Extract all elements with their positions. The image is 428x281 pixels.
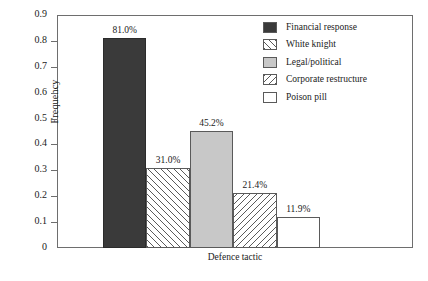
y-tick-label: 0.4 — [35, 137, 48, 148]
y-tick-label: 0.1 — [35, 215, 48, 226]
y-tick-label: 0.7 — [35, 60, 48, 71]
bar-value-label: 31.0% — [156, 155, 181, 165]
bar[interactable] — [103, 38, 146, 248]
legend-item-label: White knight — [286, 39, 336, 50]
bar[interactable] — [277, 217, 320, 248]
x-axis-title: Defence tactic — [57, 252, 413, 262]
y-tick-label: 0.3 — [35, 163, 48, 174]
y-tick-label: 0.2 — [35, 189, 48, 200]
legend-item[interactable]: White knight — [263, 39, 367, 50]
bar-value-label: 45.2% — [199, 118, 224, 128]
legend-item[interactable]: Poison pill — [263, 92, 367, 103]
bar-group: 31.0% — [146, 15, 189, 248]
chart-legend: Financial responseWhite knightLegal/poli… — [263, 22, 367, 103]
legend-swatch-icon — [263, 22, 277, 33]
y-tick-label: 0.5 — [35, 112, 48, 123]
bar[interactable] — [190, 131, 233, 248]
bar[interactable] — [146, 168, 189, 248]
legend-item[interactable]: Corporate restructure — [263, 74, 367, 85]
legend-item-label: Legal/political — [286, 57, 341, 68]
legend-item-label: Corporate restructure — [286, 74, 367, 85]
bar-value-label: 21.4% — [243, 180, 268, 190]
bar-value-label: 81.0% — [112, 25, 137, 35]
legend-swatch-icon — [263, 92, 277, 103]
y-tick-label: 0 — [42, 241, 47, 252]
legend-swatch-icon — [263, 39, 277, 50]
y-tick-label: 0.8 — [35, 34, 48, 45]
legend-item[interactable]: Financial response — [263, 22, 367, 33]
y-tick-label: 0.6 — [35, 86, 48, 97]
y-tick-label: 0.9 — [35, 8, 48, 19]
bar-value-label: 11.9% — [286, 204, 310, 214]
legend-swatch-icon — [263, 57, 277, 68]
bar-group: 45.2% — [190, 15, 233, 248]
bar[interactable] — [233, 193, 276, 248]
legend-item-label: Financial response — [286, 22, 357, 33]
legend-item-label: Poison pill — [286, 92, 327, 103]
bar-group: 81.0% — [103, 15, 146, 248]
bar-chart: Frequency 00.10.20.30.40.50.60.70.80.9 8… — [0, 0, 428, 281]
legend-swatch-icon — [263, 74, 277, 85]
legend-item[interactable]: Legal/political — [263, 57, 367, 68]
